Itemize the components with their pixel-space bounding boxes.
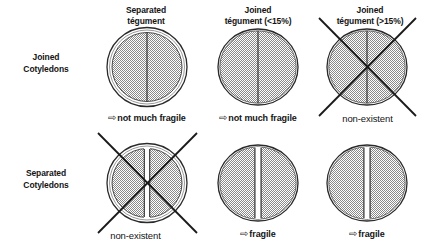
caption-text: fragile: [249, 229, 275, 239]
caption-text: non-existent: [110, 230, 161, 241]
row-label-separated-cotyledons: Separated Cotyledons: [2, 168, 90, 191]
arrow-icon: ⇨: [349, 228, 357, 239]
cell-r0c2: non-existent: [315, 22, 419, 134]
arrow-icon: ⇨: [240, 228, 248, 239]
cell-r0c0: ⇨not much fragile: [95, 22, 199, 134]
cell-r0c1: ⇨not much fragile: [206, 22, 310, 134]
caption-r0c1: ⇨not much fragile: [206, 112, 310, 123]
row-label-joined-cotyledons: Joined Cotyledons: [2, 52, 90, 75]
seed-diagram-r1c1: [215, 140, 301, 226]
seed-diagram-r0c2: [324, 24, 410, 110]
seed-svg: [215, 24, 301, 110]
seed-diagram-r0c1: [215, 24, 301, 110]
cell-r1c1: ⇨fragile: [206, 138, 310, 250]
row-label-line1: Separated: [26, 168, 66, 178]
seed-svg: [324, 24, 410, 110]
cell-r1c0: non-existent: [95, 138, 199, 250]
cotyledon-separation-gap: [255, 147, 262, 219]
seed-diagram-r0c0: [104, 24, 190, 110]
cell-r1c2: ⇨fragile: [315, 138, 419, 250]
caption-text: fragile: [358, 229, 384, 239]
caption-r1c1: ⇨fragile: [206, 228, 310, 239]
cotyledon-separation-gap: [364, 147, 371, 219]
caption-text: not much fragile: [228, 113, 296, 123]
row-label-line2: Cotyledons: [23, 64, 68, 74]
caption-r0c0: ⇨not much fragile: [95, 112, 199, 123]
column-header-line1: Joined: [318, 5, 422, 16]
seed-svg: [104, 24, 190, 110]
seed-svg: [324, 140, 410, 226]
arrow-icon: ⇨: [108, 112, 116, 123]
arrow-icon: ⇨: [219, 112, 227, 123]
caption-r0c2: non-existent: [315, 113, 419, 124]
column-header-line1: Separated: [98, 5, 194, 16]
seed-svg: [104, 140, 190, 226]
caption-r1c2: ⇨fragile: [315, 228, 419, 239]
seed-classification-figure: Separated tégument Joined tégument (<15%…: [0, 0, 426, 250]
caption-text: not much fragile: [117, 113, 185, 123]
seed-diagram-r1c0: [104, 140, 190, 226]
row-label-line2: Cotyledons: [23, 180, 68, 190]
seed-diagram-r1c2: [324, 140, 410, 226]
caption-text: non-existent: [342, 113, 393, 124]
seed-svg: [215, 140, 301, 226]
column-header-line1: Joined: [206, 5, 310, 16]
row-label-line1: Joined: [33, 52, 60, 62]
caption-r1c0: non-existent: [83, 230, 187, 241]
